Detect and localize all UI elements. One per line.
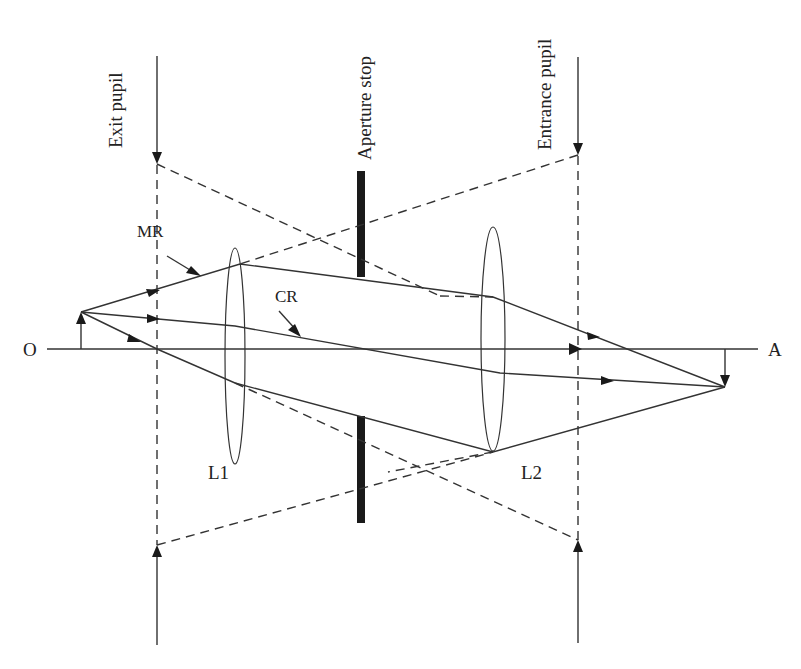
mr-pointer — [167, 256, 201, 276]
exit-pupil-label: Exit pupil — [105, 73, 126, 148]
optical-system-diagram: Exit pupil Aperture stop Entrance pupil … — [0, 0, 801, 669]
marginal-ray-upper — [81, 264, 725, 387]
object-arrow — [76, 312, 86, 349]
lens-l1 — [225, 248, 245, 464]
entrance-pupil-label: Entrance pupil — [534, 39, 555, 150]
axis-arrow — [569, 343, 582, 355]
axis-end-label: A — [768, 339, 782, 360]
cr-pointer — [279, 311, 301, 337]
chief-ray-label: CR — [275, 287, 298, 306]
image-arrow — [720, 349, 730, 387]
object-label: O — [23, 339, 37, 360]
lens-l1-label: L1 — [208, 462, 229, 483]
lens-l2-label: L2 — [521, 462, 542, 483]
aperture-stop — [357, 171, 365, 523]
aperture-stop-label: Aperture stop — [354, 56, 375, 160]
marginal-ray-label: MR — [137, 222, 164, 241]
lens-l2 — [481, 227, 505, 451]
marginal-ray-lower — [81, 312, 725, 452]
